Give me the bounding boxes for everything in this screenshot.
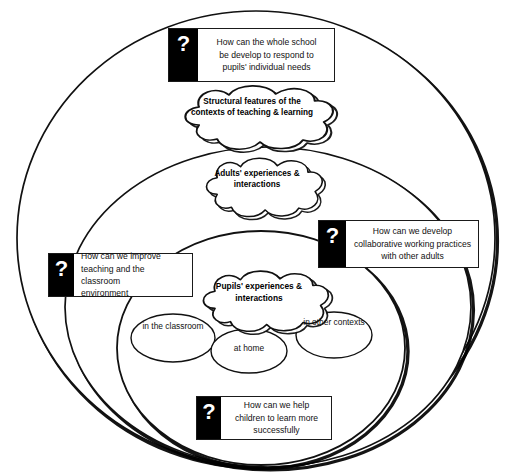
callout-line: with other adults [353,250,472,262]
callout-text: How can we develop collaborative working… [346,221,478,267]
callout-line: How can we help [228,399,325,411]
cloud-pupils [203,271,332,334]
callout-line: be develop to respond to [205,49,328,61]
callout-text: How can we improve teaching and the clas… [74,254,192,296]
callout-text: How can we help children to learn more s… [221,397,331,439]
question-mark-icon: ? [49,254,74,296]
question-mark-icon: ? [319,221,346,267]
callout-line: How can we develop [353,225,472,237]
callout-line: pupils' individual needs [205,61,328,73]
ellipse-in-the-classroom [131,314,215,362]
callout-line: How can the whole school [205,36,328,48]
diagram-canvas: Structural features of the contexts of t… [0,0,507,472]
callout-help-children[interactable]: ? How can we help children to learn more… [196,396,332,440]
cloud-adults [206,158,325,219]
callout-line: collaborative working practices [353,238,472,250]
callout-whole-school[interactable]: ? How can the whole school be develop to… [168,28,335,82]
question-mark-icon: ? [169,29,198,81]
ellipse-at-home [211,329,287,373]
callout-line: environment [81,287,186,299]
callout-text: How can the whole school be develop to r… [198,29,334,81]
callout-line: successfully [228,424,325,436]
callout-collaborative-working[interactable]: ? How can we develop collaborative worki… [318,220,479,268]
question-mark-icon: ? [197,397,221,439]
callout-line: How can we improve [81,250,186,262]
cloud-structural-features [185,86,337,152]
callout-improve-teaching[interactable]: ? How can we improve teaching and the cl… [48,253,193,297]
callout-line: teaching and the classroom [81,263,186,288]
callout-line: children to learn more [228,412,325,424]
